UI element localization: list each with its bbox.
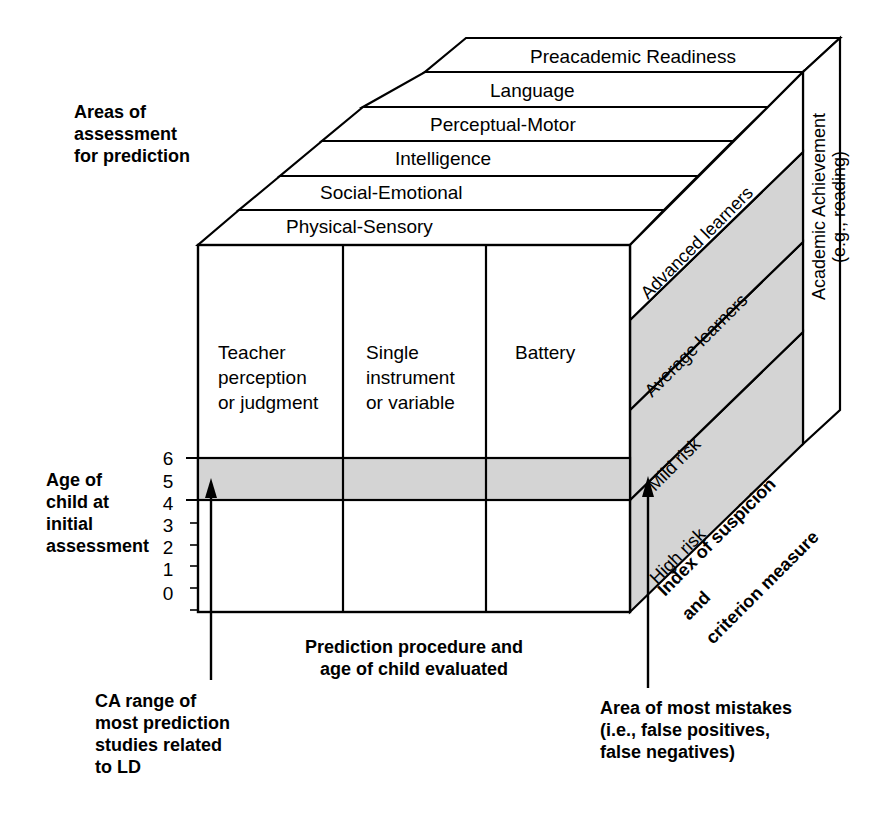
caption-areas-line1: Areas of (74, 102, 147, 122)
front-face-rect (198, 245, 630, 612)
front-column-3: Battery (515, 342, 576, 363)
caption-age-of-child: Age of child at initial assessment (46, 470, 149, 556)
age-tick-label-3: 3 (163, 515, 174, 536)
caption-age-line4: assessment (46, 536, 149, 556)
cube-diagram: Physical-Sensory Social-Emotional Intell… (0, 0, 878, 819)
top-band-social-emotional (239, 176, 698, 210)
age-tick-label-2: 2 (163, 537, 174, 558)
top-band-label-social-emotional: Social-Emotional (320, 182, 463, 203)
annot-ca-line2: most prediction (95, 713, 230, 733)
annot-ca-line3: studies related (95, 735, 222, 755)
caption-prediction-line2: age of child evaluated (320, 659, 508, 679)
top-band-label-preacademic-readiness: Preacademic Readiness (530, 46, 736, 67)
front-col3-line1: Battery (515, 342, 576, 363)
caption-prediction-procedure: Prediction procedure and age of child ev… (305, 637, 523, 679)
age-tick-label-4: 4 (163, 493, 174, 514)
caption-areas-line3: for prediction (74, 146, 190, 166)
front-col2-line3: or variable (366, 392, 455, 413)
caption-age-line3: initial (46, 514, 93, 534)
age-tick-label-1: 1 (163, 559, 174, 580)
top-band-label-physical-sensory: Physical-Sensory (286, 216, 433, 237)
annot-mistakes-line3: false negatives) (600, 742, 735, 762)
top-band-label-language: Language (490, 80, 575, 101)
age-tick-label-0: 0 (163, 583, 174, 604)
caption-index-line2: and (678, 587, 715, 624)
front-col2-line2: instrument (366, 367, 455, 388)
caption-age-line1: Age of (46, 470, 103, 490)
annot-ca-line1: CA range of (95, 691, 197, 711)
front-col1-line2: perception (218, 367, 307, 388)
figure-canvas: Physical-Sensory Social-Emotional Intell… (0, 0, 878, 819)
caption-areas-of-assessment: Areas of assessment for prediction (74, 102, 190, 166)
top-band-label-perceptual-motor: Perceptual-Motor (430, 114, 576, 135)
front-col1-line1: Teacher (218, 342, 286, 363)
caption-age-line2: child at (46, 492, 109, 512)
age-tick-label-5: 5 (163, 471, 174, 492)
caption-areas-line2: assessment (74, 124, 177, 144)
top-band-language (363, 72, 803, 107)
annotation-most-mistakes-text: Area of most mistakes (i.e., false posit… (600, 698, 792, 762)
front-face (198, 245, 630, 612)
front-face-age-highlight-band (198, 458, 630, 500)
age-tick-label-6: 6 (163, 448, 174, 469)
annot-mistakes-line2: (i.e., false positives, (600, 720, 770, 740)
caption-prediction-line1: Prediction procedure and (305, 637, 523, 657)
top-band-intelligence (280, 141, 733, 176)
front-col2-line1: Single (366, 342, 419, 363)
front-col1-line3: or judgment (218, 392, 319, 413)
annot-ca-line4: to LD (95, 757, 141, 777)
right-outer-label-line1: Academic Achievement (809, 113, 829, 300)
age-axis (186, 458, 198, 610)
right-outer-label-line2: (e.g., reading) (829, 151, 849, 263)
top-band-label-intelligence: Intelligence (395, 148, 491, 169)
annot-mistakes-line1: Area of most mistakes (600, 698, 792, 718)
annotation-ca-range-text: CA range of most prediction studies rela… (95, 691, 230, 777)
